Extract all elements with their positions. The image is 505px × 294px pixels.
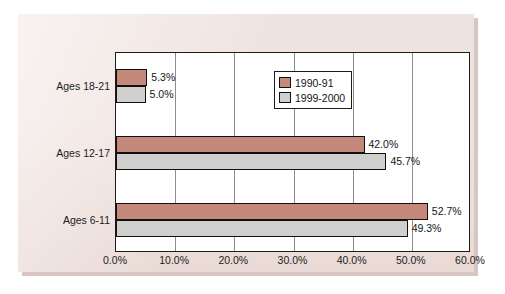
legend-swatch-icon	[279, 77, 291, 88]
category-label: Ages 6-11	[63, 203, 110, 237]
x-axis-tick-labels: 0.0%10.0%20.0%30.0%40.0%50.0%60.0%	[115, 254, 470, 270]
x-axis-tick-label: 50.0%	[396, 254, 426, 266]
category-label: Ages 18-21	[56, 69, 110, 103]
legend-swatch-icon	[279, 92, 291, 103]
chart-legend: 1990-91 1999-2000	[274, 71, 352, 109]
legend-item-label: 1999-2000	[295, 92, 345, 104]
bar-value-label: 49.3%	[412, 220, 442, 237]
category-label: Ages 12-17	[56, 136, 110, 170]
bar	[116, 86, 146, 103]
legend-item: 1990-91	[279, 75, 345, 90]
x-axis-tick-label: 0.0%	[103, 254, 127, 266]
chart-panel: Ages 18-215.3%5.0%Ages 12-1742.0%45.7%Ag…	[18, 14, 474, 272]
bar	[116, 220, 408, 237]
x-axis-tick-label: 40.0%	[337, 254, 367, 266]
bar	[116, 136, 365, 153]
chart-screenshot: Ages 18-215.3%5.0%Ages 12-1742.0%45.7%Ag…	[0, 0, 505, 294]
bar	[116, 153, 386, 170]
bar-group: Ages 6-1152.7%49.3%	[116, 203, 469, 237]
bar-value-label: 45.7%	[390, 153, 420, 170]
legend-item-label: 1990-91	[295, 77, 334, 89]
bar-value-label: 5.3%	[151, 69, 175, 86]
x-axis-tick-label: 60.0%	[455, 254, 485, 266]
bar-group: Ages 12-1742.0%45.7%	[116, 136, 469, 170]
legend-item: 1999-2000	[279, 90, 345, 105]
bar-value-label: 42.0%	[369, 136, 399, 153]
bar	[116, 69, 147, 86]
x-axis-tick-label: 20.0%	[218, 254, 248, 266]
bar-value-label: 5.0%	[150, 86, 174, 103]
bar	[116, 203, 428, 220]
bar-value-label: 52.7%	[432, 203, 462, 220]
x-axis-tick-label: 30.0%	[278, 254, 308, 266]
x-axis-tick-label: 10.0%	[159, 254, 189, 266]
